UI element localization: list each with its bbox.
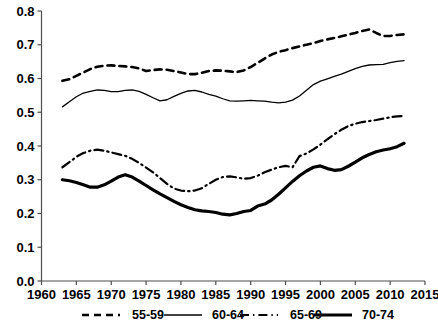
x-tick-label: 2000 — [306, 287, 335, 302]
legend-label-60-64: 60-64 — [212, 308, 244, 322]
y-tick-label: 0.4 — [16, 139, 35, 154]
x-tick-label: 1965 — [62, 287, 91, 302]
y-tick-label: 0.6 — [16, 71, 34, 86]
legend-label-55-59: 55-59 — [132, 308, 164, 322]
line-chart-figure: 0.00.10.20.30.40.50.60.70.8 196019651970… — [0, 0, 438, 336]
legend-label-70-74: 70-74 — [362, 308, 394, 322]
y-tick-label: 0.1 — [16, 240, 34, 255]
x-tick-label: 1995 — [271, 287, 300, 302]
x-tick-label: 2005 — [341, 287, 370, 302]
x-tick-label: 1970 — [97, 287, 126, 302]
x-tick-label: 1985 — [201, 287, 230, 302]
x-tick-label: 2010 — [376, 287, 405, 302]
x-tick-label: 1980 — [166, 287, 195, 302]
y-tick-label: 0.8 — [16, 4, 34, 19]
chart-background — [0, 0, 438, 336]
y-tick-label: 0.5 — [16, 105, 34, 120]
y-tick-label: 0.3 — [16, 172, 34, 187]
y-tick-label: 0.7 — [16, 37, 34, 52]
x-tick-label: 1975 — [132, 287, 161, 302]
x-tick-label: 2015 — [411, 287, 438, 302]
chart-canvas: 0.00.10.20.30.40.50.60.70.8 196019651970… — [0, 0, 438, 336]
x-tick-label: 1960 — [27, 287, 56, 302]
y-tick-label: 0.2 — [16, 206, 34, 221]
x-tick-label: 1990 — [236, 287, 265, 302]
